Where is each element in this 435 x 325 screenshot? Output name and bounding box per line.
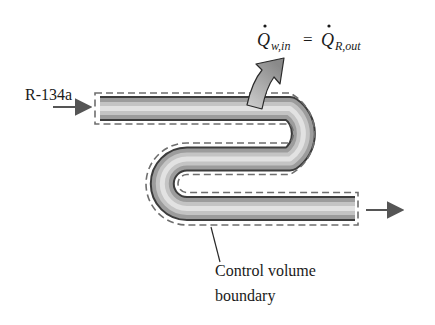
boundary-leader-line: [211, 227, 220, 262]
inlet-label: R-134a: [25, 86, 72, 103]
equation-lhs-subscript: w,in: [271, 39, 290, 53]
boundary-label-line1: Control volume: [215, 262, 316, 279]
equation-rhs-symbol: Q: [321, 30, 334, 50]
energy-balance-equation: Q w,in = Q R,out: [257, 24, 361, 53]
equation-lhs-symbol: Q: [257, 30, 270, 50]
equation-rhs-subscript: R,out: [334, 39, 361, 53]
boundary-label-line2: boundary: [215, 287, 275, 305]
dot-accent-lhs: [263, 24, 266, 27]
equation-equals: =: [303, 30, 313, 49]
dot-accent-rhs: [327, 24, 330, 27]
diagram-canvas: R-134a Q w,in = Q R,out Control volume b…: [0, 0, 435, 325]
